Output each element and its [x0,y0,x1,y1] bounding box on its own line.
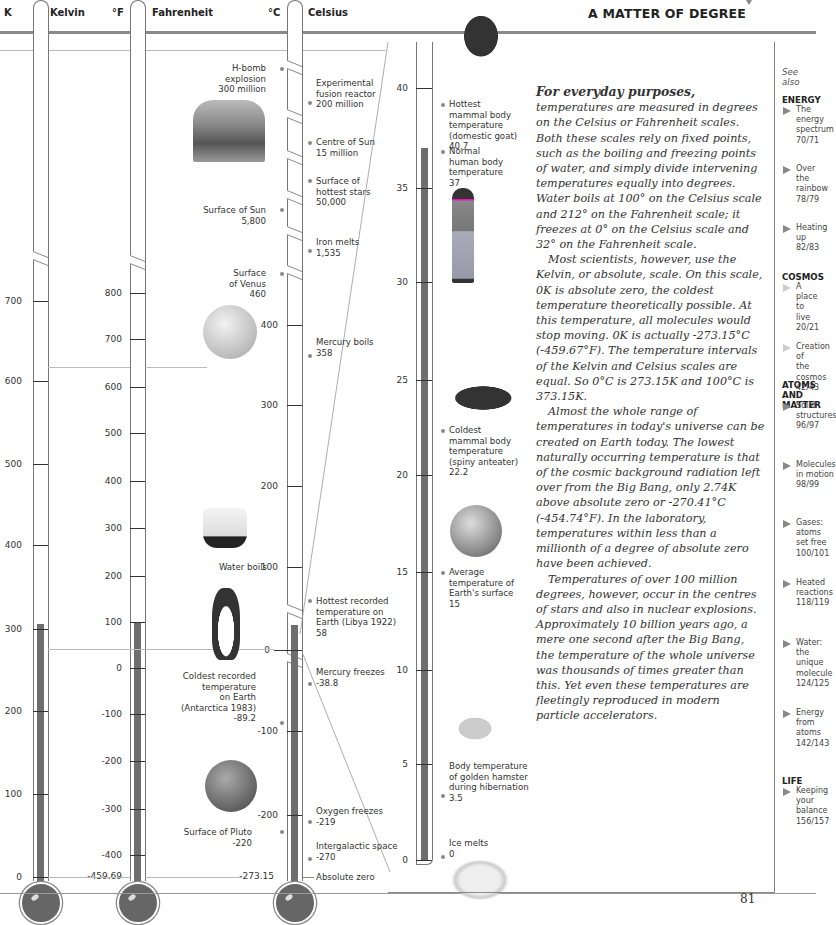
coldest-earth-label: Coldest recordedtemperatureon Earth(Anta… [176,671,256,724]
zoom-tick-label: 25 [372,375,408,385]
marker-dot [280,721,284,725]
fahrenheit-tick-label: -100 [86,709,122,719]
kelvin-tick-label: 500 [0,459,22,469]
marker-dot [308,599,312,603]
fahrenheit-tick-label: -200 [86,756,122,766]
zoom-tick-label: 0 [372,855,408,865]
fahrenheit-tick-label: 400 [86,476,122,486]
marker-dot [280,272,284,276]
page-title: A MATTER OF DEGREE [588,6,746,21]
arrow-icon [783,284,791,292]
fahrenheit-tick-label: 300 [86,523,122,533]
arrow-icon [783,462,791,470]
marker-dot [308,682,312,686]
sun-surface-label: Surface of Sun5,800 [190,205,266,226]
arrow-icon [783,107,791,115]
human-label: Normalhuman bodytemperature37 [449,146,503,188]
fahrenheit-tick-label: 500 [86,428,122,438]
celsius-tick-label: 300 [242,400,278,410]
marker-dot [280,208,284,212]
fahrenheit-tick-label: -459.69 [80,871,122,881]
arrow-icon [783,788,791,796]
sun-centre-label: Centre of Sun15 million [316,137,375,158]
water-boils-line [145,367,207,368]
article-paragraph: Almost the whole range of temperatures i… [536,404,766,571]
arrow-icon [783,640,791,648]
fahrenheit-heading: Fahrenheit [152,7,213,18]
header-rule [0,31,816,34]
celsius-tick-label: -100 [242,726,278,736]
article-paragraph: For everyday purposes, temperatures are … [536,84,766,252]
iron-melts-label: Iron melts1,535 [316,237,359,258]
marker-dot [308,101,312,105]
water-boils-line [48,367,130,368]
arrow-icon [783,344,791,352]
absolute-zero-line [48,877,130,878]
fahrenheit-tick-label: -300 [86,804,122,814]
celsius-tick-label: 200 [242,481,278,491]
fahrenheit-tick-label: 0 [86,663,122,673]
marker-dot [441,794,445,798]
kelvin-tick-label: 400 [0,540,22,550]
article-paragraph: Most scientists, however, use the Kelvin… [536,252,766,404]
zoom-mercury [421,148,428,861]
fahrenheit-tick-label: -400 [86,850,122,860]
kelvin-tick-label: 200 [0,706,22,716]
kelvin-bulb [20,882,62,924]
kelvin-unit: K [4,7,12,18]
zoom-tick-label: 30 [372,277,408,287]
venus-image [203,305,257,359]
article-paragraph: Temperatures of over 100 million degrees… [536,572,766,724]
celsius-tick-label: -273.15 [230,871,274,881]
hbomb-label: H-bombexplosion300 million [200,63,266,95]
freezing-line [48,649,274,650]
marker-dot [308,857,312,861]
penguin-image [212,588,240,660]
celsius-bulb [274,882,316,924]
marker-dot [308,354,312,358]
hot-stars-label: Surface ofhottest stars50,000 [316,176,370,208]
arrow-icon [783,166,791,174]
marker-dot [308,179,312,183]
marker-icon [746,0,752,5]
page-number: 81 [740,892,755,906]
mushroom-cloud-image [193,100,265,162]
pluto-label: Surface of Pluto-220 [180,827,252,848]
venus-label: Surfaceof Venus460 [200,268,266,300]
hamster-label: Body temperatureof golden hamsterduring … [449,761,529,803]
marker-dot [441,429,445,433]
baseline-rule [0,893,816,894]
zoom-connector [290,40,400,880]
article-lead: For everyday purposes, [536,84,695,99]
kelvin-tick-label: 300 [0,624,22,634]
arrow-icon [783,403,791,411]
fahrenheit-bulb [117,882,159,924]
arrow-icon [783,710,791,718]
zoom-tick-label: 40 [372,83,408,93]
arrow-icon [783,580,791,588]
fahrenheit-mercury [134,623,141,886]
celsius-heading: Celsius [308,7,348,18]
marker-dot [441,150,445,154]
marker-dot [280,830,284,834]
fahrenheit-unit: °F [112,7,124,18]
fusion-label: Experimentalfusion reactor200 million [316,78,376,110]
water-boils-label: Water boils [195,562,267,573]
fahrenheit-tick-label: 700 [86,334,122,344]
absolute-zero-label: Absolute zero [316,872,375,883]
kelvin-tick-label: 0 [0,872,22,882]
article-body: For everyday purposes, temperatures are … [536,84,766,724]
absolute-zero-line [145,877,242,878]
arrow-icon [783,225,791,233]
zoom-tick-label: 35 [372,183,408,193]
fahrenheit-tick-label: 600 [86,382,122,392]
earth-label: Averagetemperature ofEarth's surface15 [449,567,514,609]
hottest-earth-label: Hottest recordedtemperature onEarth (Lib… [316,596,396,638]
kelvin-mercury [37,624,44,886]
arrow-icon [783,520,791,528]
see-also-heading: See also [782,67,816,87]
fahrenheit-tick-label: 800 [86,288,122,298]
marker-dot [308,820,312,824]
kelvin-tick-label: 700 [0,296,22,306]
celsius-tick-label: -200 [242,810,278,820]
